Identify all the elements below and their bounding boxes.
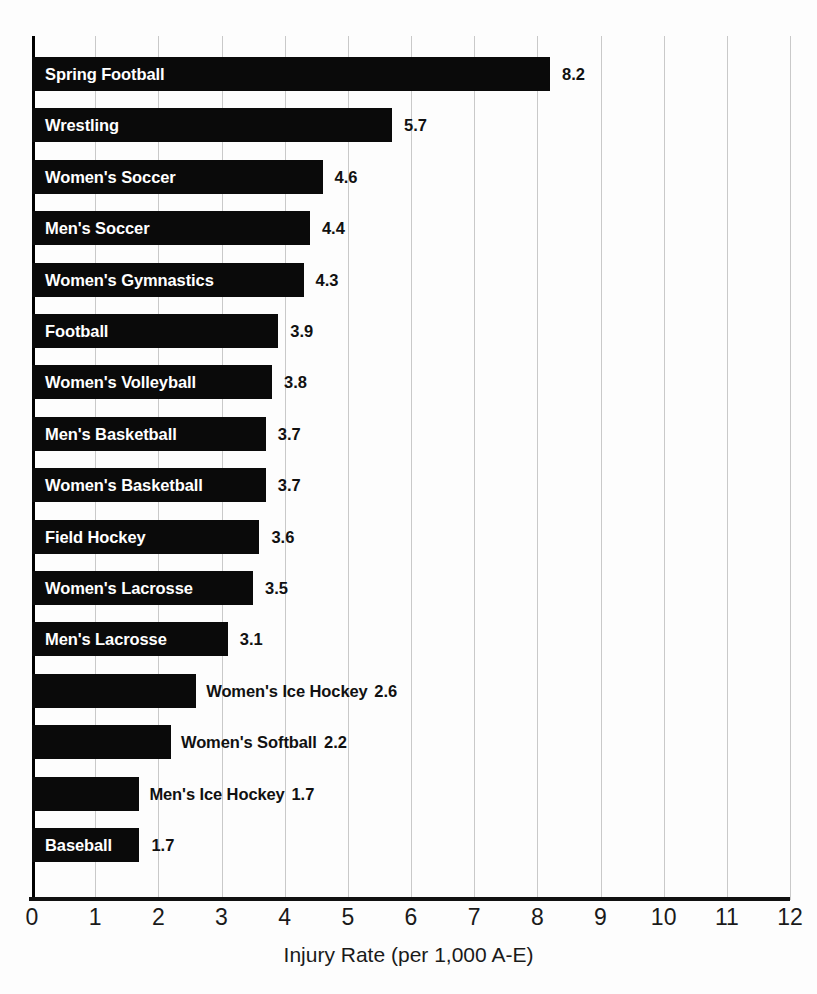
bar-value-label: 3.5 (265, 571, 288, 605)
x-tick-9: 9 (581, 904, 621, 931)
bar-row: Football3.9 (32, 314, 790, 348)
bar-row: Women's Lacrosse3.5 (32, 571, 790, 605)
bar-value-label: 3.6 (271, 520, 294, 554)
bar-row: Men's Lacrosse3.1 (32, 622, 790, 656)
bar-row: Wrestling5.7 (32, 108, 790, 142)
x-tick-10: 10 (644, 904, 684, 931)
bar-category-label: Men's Basketball (45, 417, 177, 451)
bar-value-label: 3.8 (284, 365, 307, 399)
bar-category-label: Women's Ice Hockey (206, 674, 367, 708)
bar-row: Men's Soccer4.4 (32, 211, 790, 245)
bar-row: Field Hockey3.6 (32, 520, 790, 554)
bar-row: Women's Basketball3.7 (32, 468, 790, 502)
bar-value-label: 5.7 (404, 108, 427, 142)
bar-category-label: Spring Football (45, 57, 165, 91)
bar-category-label: Men's Ice Hockey (149, 777, 284, 811)
bar-category-label: Wrestling (45, 108, 119, 142)
x-tick-0: 0 (12, 904, 52, 931)
bar-row: Women's Soccer4.6 (32, 160, 790, 194)
x-tick-2: 2 (138, 904, 178, 931)
bar-value-label: 1.7 (291, 777, 314, 811)
bar-category-label: Women's Volleyball (45, 365, 196, 399)
bar-row: Men's Ice Hockey1.7 (32, 777, 790, 811)
bar-value-label: 3.9 (290, 314, 313, 348)
bar-category-label: Women's Softball (181, 725, 317, 759)
bar-value-label: 3.7 (278, 417, 301, 451)
plot-area: Spring Football8.2Wrestling5.7Women's So… (32, 36, 790, 900)
bar-value-label: 1.7 (151, 828, 174, 862)
x-tick-11: 11 (707, 904, 747, 931)
bar-value-label: 8.2 (562, 57, 585, 91)
bar-row: Women's Volleyball3.8 (32, 365, 790, 399)
bar-row: Women's Gymnastics4.3 (32, 263, 790, 297)
bar-category-label: Women's Gymnastics (45, 263, 214, 297)
x-tick-7: 7 (454, 904, 494, 931)
x-tick-4: 4 (265, 904, 305, 931)
bar-category-label: Women's Basketball (45, 468, 203, 502)
x-tick-1: 1 (75, 904, 115, 931)
bar-category-label: Field Hockey (45, 520, 146, 554)
bar-category-label: Men's Soccer (45, 211, 150, 245)
bar-row: Spring Football8.2 (32, 57, 790, 91)
bar-category-label: Women's Lacrosse (45, 571, 193, 605)
bar-value-label: 3.7 (278, 468, 301, 502)
bar[interactable] (32, 777, 139, 811)
bar-row: Women's Ice Hockey2.6 (32, 674, 790, 708)
bar-value-label: 2.6 (374, 674, 397, 708)
x-tick-6: 6 (391, 904, 431, 931)
gridline-12 (790, 36, 791, 900)
bar-value-label: 4.4 (322, 211, 345, 245)
x-axis-title: Injury Rate (per 1,000 A-E) (0, 943, 817, 967)
injury-rate-bar-chart: Spring Football8.2Wrestling5.7Women's So… (0, 0, 817, 994)
bar-value-label: 4.6 (335, 160, 358, 194)
bar-value-label: 4.3 (316, 263, 339, 297)
x-tick-3: 3 (202, 904, 242, 931)
bar-category-label: Women's Soccer (45, 160, 176, 194)
bar-row: Baseball1.7 (32, 828, 790, 862)
x-tick-12: 12 (770, 904, 810, 931)
x-tick-5: 5 (328, 904, 368, 931)
bar-row: Women's Softball2.2 (32, 725, 790, 759)
x-axis-line (29, 897, 790, 901)
bar-value-label: 2.2 (324, 725, 347, 759)
bar-category-label: Men's Lacrosse (45, 622, 167, 656)
bar-category-label: Football (45, 314, 108, 348)
bar[interactable] (32, 674, 196, 708)
bar-value-label: 3.1 (240, 622, 263, 656)
bar[interactable] (32, 725, 171, 759)
bar-category-label: Baseball (45, 828, 112, 862)
x-tick-8: 8 (517, 904, 557, 931)
bar-row: Men's Basketball3.7 (32, 417, 790, 451)
